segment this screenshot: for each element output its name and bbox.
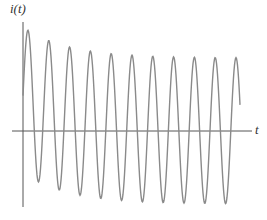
current-waveform <box>23 30 240 203</box>
chart-plot <box>0 0 267 220</box>
y-axis-label: i(t) <box>10 1 26 17</box>
x-axis-label: t <box>255 122 259 138</box>
